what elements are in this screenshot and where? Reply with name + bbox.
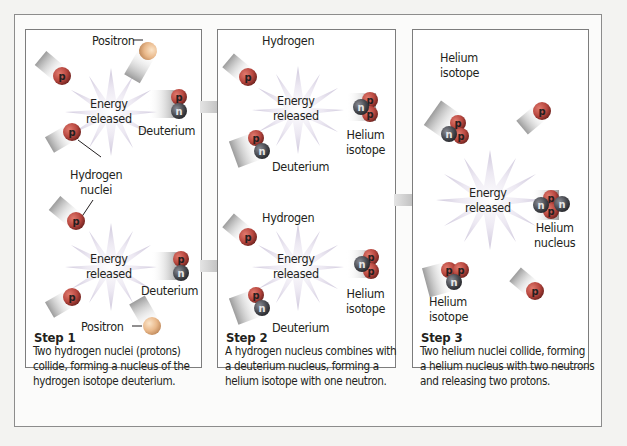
hydrogen-line: Hydrogen: [70, 167, 122, 182]
svg-text:p: p: [457, 130, 464, 143]
energy-line: Energy: [86, 96, 132, 111]
deuterium-label: Deuterium: [138, 123, 195, 138]
nuclei-line: nuclei: [70, 182, 122, 197]
isotope-line: isotope: [346, 142, 385, 157]
svg-text:p: p: [531, 285, 538, 298]
helium-line: Helium: [346, 286, 385, 301]
energy-line: Energy: [86, 251, 132, 266]
step-2-title: Step 2: [226, 330, 267, 345]
helium-isotope-label: Helium isotope: [440, 50, 479, 80]
svg-text:n: n: [358, 258, 365, 271]
helium-line: Helium: [346, 127, 385, 142]
hydrogen-label: Hydrogen: [262, 210, 314, 225]
description-line: and releasing two protons.: [420, 374, 594, 389]
svg-text:p: p: [457, 264, 464, 277]
svg-text:n: n: [258, 302, 265, 315]
step-2-panel: p p p n p n p p p n p n Hydrogen Energy …: [217, 29, 396, 368]
svg-text:n: n: [258, 145, 265, 158]
helium-line: Helium: [429, 294, 468, 309]
svg-text:n: n: [450, 276, 457, 289]
svg-text:p: p: [175, 91, 182, 104]
energy-released-label: Energy released: [86, 96, 132, 126]
energy-line: Energy: [273, 251, 319, 266]
energy-line: Energy: [465, 185, 511, 200]
svg-text:n: n: [537, 199, 544, 212]
svg-text:n: n: [445, 128, 452, 141]
step-3-panel: p p n p p p n n p p n p Helium isotope E…: [412, 29, 589, 368]
svg-text:n: n: [175, 105, 182, 118]
released-line: released: [273, 266, 319, 281]
isotope-line: isotope: [440, 65, 479, 80]
released-line: released: [465, 200, 511, 215]
step-3-description: Two helium nuclei collide, forming a hel…: [420, 344, 594, 389]
released-line: released: [273, 108, 319, 123]
helium-line: Helium: [440, 50, 479, 65]
hydrogen-label: Hydrogen: [262, 33, 314, 48]
deuterium-label: Deuterium: [272, 320, 329, 335]
isotope-line: isotope: [346, 301, 385, 316]
helium-isotope-label: Helium isotope: [429, 294, 468, 324]
description-line: hydrogen isotope deuterium.: [33, 374, 189, 389]
description-line: a deuterium nucleus, forming a: [225, 359, 396, 374]
isotope-line: isotope: [429, 309, 468, 324]
positron-label: Positron: [81, 319, 124, 334]
description-line: collide, forming a nucleus of the: [33, 359, 189, 374]
step-2-description: A hydrogen nucleus combines with a deute…: [225, 344, 396, 389]
svg-text:p: p: [244, 71, 251, 84]
svg-text:n: n: [558, 198, 565, 211]
svg-text:p: p: [252, 289, 259, 302]
released-line: released: [86, 111, 132, 126]
deuterium-label: Deuterium: [141, 283, 198, 298]
svg-text:p: p: [177, 253, 184, 266]
deuterium-label: Deuterium: [272, 159, 329, 174]
step-1-panel: p p n p p p n p Positron Energy released…: [25, 29, 202, 368]
step-2-illustration: p p p n p n p p p n p n: [218, 30, 397, 369]
step-3-title: Step 3: [421, 330, 462, 345]
energy-released-label: Energy released: [273, 251, 319, 281]
energy-released-label: Energy released: [273, 93, 319, 123]
svg-text:n: n: [357, 101, 364, 114]
description-line: Two helium nuclei collide, forming: [420, 344, 594, 359]
description-line: helium isotope with one neutron.: [225, 374, 396, 389]
description-line: Two hydrogen nuclei (protons): [33, 344, 189, 359]
description-line: A hydrogen nucleus combines with: [225, 344, 396, 359]
energy-line: Energy: [273, 93, 319, 108]
svg-text:p: p: [58, 70, 65, 83]
svg-text:p: p: [68, 291, 75, 304]
positron-label: Positron: [92, 33, 135, 48]
helium-isotope-label: Helium isotope: [346, 286, 385, 316]
energy-released-label: Energy released: [465, 185, 511, 215]
helium-line: Helium: [534, 220, 575, 235]
released-line: released: [86, 266, 132, 281]
svg-text:p: p: [68, 126, 75, 139]
svg-text:p: p: [252, 132, 259, 145]
description-line: a helium nucleus with two neutrons: [420, 359, 594, 374]
step-1-description: Two hydrogen nuclei (protons) collide, f…: [33, 344, 189, 389]
svg-text:n: n: [177, 267, 184, 280]
energy-released-label: Energy released: [86, 251, 132, 281]
svg-text:p: p: [72, 215, 79, 228]
svg-text:p: p: [244, 231, 251, 244]
hydrogen-nuclei-label: Hydrogen nuclei: [70, 167, 122, 197]
nucleus-line: nucleus: [534, 235, 575, 250]
helium-isotope-label: Helium isotope: [346, 127, 385, 157]
svg-text:p: p: [538, 105, 545, 118]
helium-nucleus-label: Helium nucleus: [534, 220, 575, 250]
step-1-title: Step 1: [34, 330, 75, 345]
